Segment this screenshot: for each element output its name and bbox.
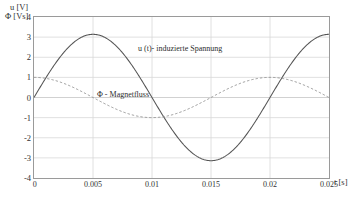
plot-area: 43210-1-2-3-4 00.0050.010.0150.020.025 u… <box>33 16 330 179</box>
u-curve-label: u (t)- induzierte Spannung <box>138 44 222 53</box>
y-tick-label: 4 <box>27 12 31 22</box>
x-tick-label: 0.025 <box>320 180 338 189</box>
x-tick-label: 0.005 <box>84 180 102 189</box>
y-tick-label: 3 <box>27 32 31 42</box>
x-tick-label: 0.015 <box>202 180 220 189</box>
chart-figure: u [V] Φ [Vs] t [s] 43210-1-2-3-4 00.0050… <box>0 0 362 202</box>
y-tick-label: 1 <box>27 72 31 82</box>
u-curve <box>34 34 329 160</box>
x-tick-label: 0.01 <box>145 180 159 189</box>
y-tick-label: 0 <box>27 93 31 103</box>
x-tick-label: 0.02 <box>263 180 277 189</box>
phi-curve <box>34 77 329 117</box>
y-tick-label: 2 <box>27 52 31 62</box>
phi-curve-label: Φ - Magnetfluss <box>97 90 149 99</box>
y-tick-label: -3 <box>24 153 31 163</box>
y-tick-label: -4 <box>24 173 31 183</box>
curves-layer <box>34 17 329 178</box>
x-tick-label: 0 <box>33 180 37 189</box>
y-axis-label-flux: Φ [Vs] <box>5 12 28 22</box>
y-tick-label: -1 <box>24 113 31 123</box>
y-tick-label: -2 <box>24 133 31 143</box>
